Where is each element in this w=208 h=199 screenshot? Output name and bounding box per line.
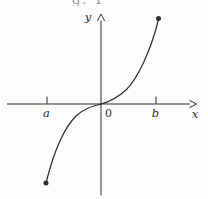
y-axis-arrowhead-icon <box>97 14 104 21</box>
origin-label: 0 <box>105 107 112 120</box>
x-axis-label: x <box>192 107 199 121</box>
tick-b-label: b <box>152 106 159 120</box>
graph-canvas: y x 0 a b <box>0 0 208 199</box>
tick-a-label: a <box>43 106 50 120</box>
y-axis-label: y <box>84 10 92 24</box>
curve-endpoint-dot-upper <box>156 16 161 21</box>
function-graph-figure: g. 1 y x 0 a b <box>0 0 208 199</box>
function-curve <box>46 20 159 184</box>
curve-endpoint-dot-lower <box>44 181 49 186</box>
